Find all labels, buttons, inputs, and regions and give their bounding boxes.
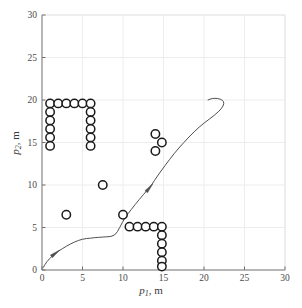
trajectory-line bbox=[43, 98, 224, 267]
obstacle-marker bbox=[150, 222, 158, 230]
obstacle-marker bbox=[78, 99, 86, 107]
obstacle-marker bbox=[151, 130, 159, 138]
obstacle-marker bbox=[46, 133, 54, 141]
x-tick-label: 15 bbox=[159, 273, 169, 283]
obstacle-marker bbox=[86, 99, 94, 107]
trajectory-path bbox=[43, 98, 224, 267]
obstacle-marker bbox=[86, 116, 94, 124]
obstacle-marker bbox=[99, 181, 107, 189]
y-tick-label: 0 bbox=[32, 265, 37, 275]
obstacle-marker bbox=[125, 222, 133, 230]
y-axis-label: p2, m bbox=[9, 113, 23, 173]
scatter-plot: 051015202530051015202530 bbox=[0, 0, 302, 308]
obstacle-marker bbox=[133, 222, 141, 230]
x-tick-label: 10 bbox=[118, 273, 128, 283]
y-tick-label: 10 bbox=[28, 180, 38, 190]
obstacle-marker bbox=[46, 142, 54, 150]
obstacle-marker bbox=[46, 116, 54, 124]
obstacle-marker bbox=[158, 138, 166, 146]
x-axis-label: p1, m bbox=[0, 284, 302, 298]
y-tick-label: 15 bbox=[28, 138, 38, 148]
obstacle-marker bbox=[151, 147, 159, 155]
obstacle-marker bbox=[54, 99, 62, 107]
x-axis-label-unit: , m bbox=[149, 284, 163, 296]
y-tick-label: 30 bbox=[28, 10, 38, 20]
x-tick-label: 30 bbox=[280, 273, 290, 283]
x-tick-label: 5 bbox=[80, 273, 85, 283]
arrow-icon bbox=[50, 249, 60, 258]
x-tick-label: 0 bbox=[40, 273, 45, 283]
obstacle-marker bbox=[86, 108, 94, 116]
y-tick-label: 5 bbox=[32, 223, 37, 233]
obstacle-marker bbox=[158, 248, 166, 256]
obstacle-marker bbox=[70, 99, 78, 107]
obstacle-marker bbox=[46, 125, 54, 133]
arrow-icon bbox=[145, 183, 154, 193]
obstacle-marker bbox=[119, 211, 127, 219]
y-axis-label-base: p bbox=[9, 149, 21, 155]
obstacle-marker bbox=[62, 99, 70, 107]
obstacle-marker bbox=[158, 231, 166, 239]
y-axis-label-subscript: 2 bbox=[14, 145, 23, 149]
obstacle-marker bbox=[158, 239, 166, 247]
chart-figure: 051015202530051015202530 p1, m p2, m bbox=[0, 0, 302, 308]
obstacle-marker bbox=[86, 125, 94, 133]
obstacle-marker bbox=[46, 108, 54, 116]
obstacle-marker bbox=[141, 222, 149, 230]
x-tick-label: 20 bbox=[199, 273, 209, 283]
x-tick-label: 25 bbox=[240, 273, 250, 283]
obstacle-marker bbox=[86, 142, 94, 150]
y-tick-label: 20 bbox=[28, 95, 38, 105]
obstacle-marker bbox=[62, 211, 70, 219]
obstacle-marker bbox=[158, 222, 166, 230]
obstacle-marker bbox=[158, 262, 166, 270]
y-tick-label: 25 bbox=[28, 53, 38, 63]
obstacle-marker bbox=[86, 133, 94, 141]
y-axis-label-unit: , m bbox=[9, 131, 21, 145]
obstacle-marker bbox=[46, 99, 54, 107]
